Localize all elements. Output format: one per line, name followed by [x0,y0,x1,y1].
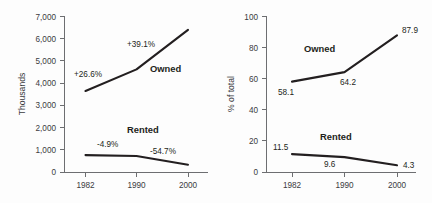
figure-container: 7,000 6,000 5,000 4,000 3,000 2,000 1,00… [0,0,432,203]
right-x-tick-label-2000: 2000 [388,181,407,190]
left-series-line-rented [86,155,189,165]
left-annotation-rented-1982-1990: -4.9% [97,140,118,149]
right-series-label-owned: Owned [304,43,336,54]
left-chart-svg: 7,000 6,000 5,000 4,000 3,000 2,000 1,00… [0,0,216,203]
left-y-tick-label-1000: 1,000 [36,146,57,155]
right-value-label-owned-1990: 64.2 [340,78,356,87]
left-y-tick-label-3000: 3,000 [36,101,57,110]
left-x-tick-label-1982: 1982 [76,181,95,190]
left-y-tick-label-4000: 4,000 [36,79,57,88]
right-y-tick-label-80: 80 [249,44,259,53]
left-y-tick-label-2000: 2,000 [36,124,57,133]
right-x-tick-label-1990: 1990 [335,181,354,190]
left-annotation-owned-1990-2000: +39.1% [127,40,155,49]
left-annotation-owned-1982-1990: +26.6% [74,70,102,79]
right-value-label-rented-1990: 9.6 [324,160,336,169]
right-series-label-rented: Rented [320,131,352,142]
left-series-line-owned [86,30,189,91]
left-x-tick-label-2000: 2000 [179,181,198,190]
left-series-label-rented: Rented [127,124,159,135]
left-x-tick-label-1990: 1990 [127,181,146,190]
right-chart-svg: 100 80 60 40 20 0 % of total 1982 1990 2… [216,0,432,203]
left-y-tick-label-0: 0 [51,168,56,177]
right-y-tick-label-40: 40 [249,106,259,115]
right-value-label-rented-1982: 11.5 [273,143,289,152]
left-series-label-owned: Owned [150,63,182,74]
left-y-tick-label-7000: 7,000 [36,13,57,22]
chart-panel-left: 7,000 6,000 5,000 4,000 3,000 2,000 1,00… [0,0,216,203]
right-y-tick-label-100: 100 [244,13,258,22]
left-y-tick-label-6000: 6,000 [36,35,57,44]
left-y-axis-title: Thousands [17,73,27,116]
right-value-label-owned-1982: 58.1 [278,88,294,97]
right-y-tick-label-20: 20 [249,137,259,146]
right-value-label-owned-2000: 87.9 [402,26,418,35]
left-y-tick-label-5000: 5,000 [36,57,57,66]
right-x-tick-label-1982: 1982 [283,181,302,190]
right-y-axis-title: % of total [226,76,236,112]
left-annotation-rented-1990-2000: -54.7% [150,147,176,156]
right-y-tick-label-0: 0 [253,168,258,177]
right-series-line-rented [292,154,397,165]
right-y-tick-label-60: 60 [249,75,259,84]
chart-panel-right: 100 80 60 40 20 0 % of total 1982 1990 2… [216,0,432,203]
right-value-label-rented-2000: 4.3 [403,161,415,170]
